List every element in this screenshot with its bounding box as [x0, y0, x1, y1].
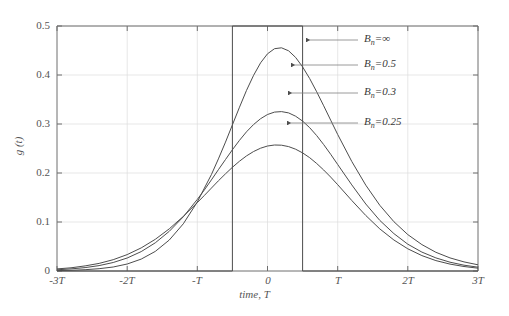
annotation-symbol: B — [364, 115, 371, 127]
y-tick-label-0-1: 0.1 — [26, 215, 50, 227]
y-tick-label-0-4: 0.4 — [26, 68, 50, 80]
y-axis-title: g (t) — [12, 116, 24, 176]
y-tick-label-0-2: 0.2 — [26, 166, 50, 178]
annotation-value: =0.5 — [375, 57, 396, 69]
annotation-value: =0.3 — [375, 85, 396, 97]
series-annotation-bn-0-5: Bn=0.5 — [364, 57, 396, 72]
x-tick-label-0: 0 — [255, 274, 281, 286]
chart-canvas — [0, 0, 509, 316]
x-tick-label-minus-3t: -3T — [44, 274, 70, 286]
x-tick-label-minus-2t: -2T — [114, 274, 140, 286]
x-tick-label-t: T — [325, 274, 351, 286]
figure-container: 0.5 0.4 0.3 0.2 0.1 0 -3T -2T -T 0 T 2T … — [0, 0, 509, 316]
series-annotation-bn-0-3: Bn=0.3 — [364, 85, 396, 100]
annotation-symbol: B — [364, 57, 371, 69]
x-tick-label-2t: 2T — [395, 274, 421, 286]
annotation-value: =∞ — [375, 32, 390, 44]
series-annotation-bn-0-25: Bn=0.25 — [364, 115, 401, 130]
series-annotation-bn-infinity: Bn=∞ — [364, 32, 390, 47]
y-tick-label-0-5: 0.5 — [26, 19, 50, 31]
x-axis-title: time, T — [0, 288, 509, 300]
y-tick-label-0-3: 0.3 — [26, 117, 50, 129]
annotation-symbol: B — [364, 85, 371, 97]
x-tick-label-3t: 3T — [465, 274, 491, 286]
annotation-value: =0.25 — [375, 115, 402, 127]
annotation-symbol: B — [364, 32, 371, 44]
x-tick-label-minus-t: -T — [184, 274, 210, 286]
